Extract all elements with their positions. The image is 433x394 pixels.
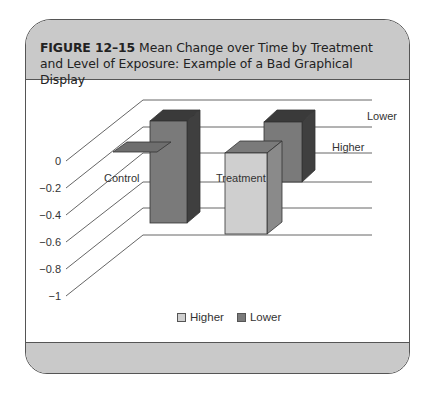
legend-label: Higher: [190, 311, 224, 323]
y-axis-labels: 0 −0.2 −0.4 −0.6 −0.8 −1: [39, 155, 61, 302]
chart-area: 0 −0.2 −0.4 −0.6 −0.8 −1 Control Treatme…: [0, 0, 433, 394]
gridlines: [66, 100, 372, 296]
legend-item-lower: Lower: [237, 311, 281, 323]
category-label-treatment: Treatment: [216, 172, 266, 184]
y-tick: −1: [48, 290, 61, 302]
category-label-control: Control: [104, 172, 139, 184]
y-tick: −0.2: [39, 182, 61, 194]
chart-legend: Higher Lower: [177, 311, 289, 323]
y-tick: −0.4: [39, 209, 61, 221]
y-tick: −0.8: [39, 263, 61, 275]
bar-treatment-higher: [225, 141, 282, 234]
legend-item-higher: Higher: [177, 311, 224, 323]
y-tick: 0: [55, 155, 61, 167]
legend-swatch-lower: [237, 313, 246, 322]
legend-swatch-higher: [177, 313, 186, 322]
legend-label: Lower: [250, 311, 281, 323]
y-tick: −0.6: [39, 236, 61, 248]
depth-label-higher: Higher: [332, 141, 365, 153]
bar-control-lower: [150, 110, 200, 223]
depth-label-lower: Lower: [367, 110, 397, 122]
